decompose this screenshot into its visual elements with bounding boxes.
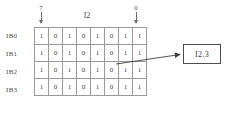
bit-cell: 0 — [105, 62, 119, 79]
callout-label: I2.3 — [195, 50, 209, 59]
bit-cell: 0 — [77, 28, 91, 45]
bit-cell: 0 — [49, 62, 63, 79]
bit-cell: 1 — [91, 45, 105, 62]
bit-cell: 1 — [63, 79, 77, 96]
row-label-ib2: IB2 — [6, 68, 32, 76]
bit-cell: 1 — [91, 62, 105, 79]
table-row: 1 0 1 0 1 0 1 1 — [35, 62, 147, 79]
bit-cell: 1 — [35, 62, 49, 79]
bit-cell: 1 — [133, 45, 147, 62]
bit-cell: 0 — [49, 28, 63, 45]
bit-cell: 0 — [49, 45, 63, 62]
bit-cell: 1 — [119, 62, 133, 79]
bit-cell: 1 — [119, 28, 133, 45]
bit-marker-leftmost-label: 7 — [31, 4, 51, 12]
row-label-ib3: IB3 — [6, 86, 32, 94]
bit-cell: 1 — [133, 62, 147, 79]
bit-cell: 1 — [133, 79, 147, 96]
bit-cell: 1 — [35, 79, 49, 96]
bit-cell: 0 — [77, 79, 91, 96]
bit-cell: 1 — [119, 45, 133, 62]
table-row: 1 0 1 0 1 0 1 1 — [35, 28, 147, 45]
bit-cell: 0 — [105, 28, 119, 45]
bit-marker-rightmost: 0 — [126, 4, 146, 23]
arrow-down-icon — [41, 12, 42, 23]
bit-grid: 1 0 1 0 1 0 1 1 1 0 1 0 1 0 1 1 1 0 — [34, 27, 147, 96]
bit-marker-rightmost-label: 0 — [126, 4, 146, 12]
bit-cell: 1 — [91, 28, 105, 45]
bit-cell: 0 — [105, 45, 119, 62]
byte-label: I2 — [62, 11, 112, 20]
callout-box: I2.3 — [183, 44, 221, 64]
bit-cell: 1 — [63, 45, 77, 62]
bit-cell: 1 — [91, 79, 105, 96]
table-row: 1 0 1 0 1 0 1 1 — [35, 45, 147, 62]
arrow-down-icon — [136, 12, 137, 23]
bit-cell: 0 — [77, 62, 91, 79]
bit-cell: 0 — [49, 79, 63, 96]
bit-cell: 1 — [119, 79, 133, 96]
bit-cell: 1 — [133, 28, 147, 45]
bit-cell: 1 — [63, 62, 77, 79]
bit-cell: 0 — [77, 45, 91, 62]
row-label-ib1: IB1 — [6, 50, 32, 58]
table-row: 1 0 1 0 1 0 1 1 — [35, 79, 147, 96]
bit-cell: 1 — [35, 45, 49, 62]
bit-cell: 1 — [63, 28, 77, 45]
bit-addressing-diagram: 7 0 I2 IB0 IB1 IB2 IB3 1 0 1 0 1 0 1 1 1… — [0, 0, 227, 113]
bit-cell: 1 — [35, 28, 49, 45]
bit-cell: 0 — [105, 79, 119, 96]
bit-marker-leftmost: 7 — [31, 4, 51, 23]
row-label-ib0: IB0 — [6, 32, 32, 40]
